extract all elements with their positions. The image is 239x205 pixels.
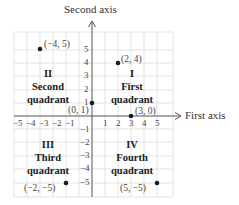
x-tick: 1 <box>103 119 108 128</box>
point-label: (−2, −5) <box>24 184 55 194</box>
y-tick: −3 <box>80 151 90 160</box>
y-tick: −2 <box>80 138 90 147</box>
quadrant-word: quadrant <box>18 93 78 106</box>
point-neg2-neg5 <box>64 181 69 186</box>
quadrant-3-label: III Third quadrant <box>18 138 78 177</box>
x-tick: 3 <box>129 119 134 128</box>
point-5-neg5 <box>155 181 160 186</box>
y-tick: 5 <box>84 45 89 54</box>
quadrant-name: Fourth <box>99 151 165 164</box>
quadrant-name: Third <box>18 151 78 164</box>
y-tick: 2 <box>84 85 89 94</box>
point-label: (0, 1) <box>68 106 89 116</box>
x-tick: −2 <box>52 119 62 128</box>
y-tick: −4 <box>80 164 90 173</box>
quadrant-word: quadrant <box>99 164 165 177</box>
quadrant-numeral: I <box>99 67 165 80</box>
x-tick: 4 <box>142 119 147 128</box>
point-label: (−4, 5) <box>44 40 70 50</box>
point-label: (3, 0) <box>135 107 156 117</box>
y-tick: 3 <box>84 71 89 80</box>
quadrant-word: quadrant <box>99 93 165 106</box>
point-label: (5, −5) <box>120 184 146 194</box>
x-tick: −3 <box>39 119 49 128</box>
x-tick: −1 <box>65 119 75 128</box>
quadrant-numeral: III <box>18 138 78 151</box>
y-tick: −1 <box>80 125 90 134</box>
first-axis-title: First axis <box>185 110 226 121</box>
y-tick: 4 <box>84 58 89 67</box>
x-tick: 5 <box>155 119 160 128</box>
quadrant-numeral: II <box>18 67 78 80</box>
quadrant-word: quadrant <box>18 164 78 177</box>
quadrant-name: Second <box>18 80 78 93</box>
x-tick: −4 <box>26 119 36 128</box>
quadrant-1-label: I First quadrant <box>99 67 165 106</box>
quadrant-name: First <box>99 80 165 93</box>
point-neg4-5 <box>38 47 43 52</box>
quadrant-2-label: II Second quadrant <box>18 67 78 106</box>
quadrant-4-label: IV Fourth quadrant <box>99 138 165 177</box>
y-tick: −5 <box>80 178 90 187</box>
x-tick: −5 <box>13 119 23 128</box>
point-label: (2, 4) <box>121 55 142 65</box>
second-axis-title: Second axis <box>64 4 117 15</box>
point-0-1 <box>90 101 95 106</box>
point-2-4 <box>116 61 121 66</box>
quadrant-numeral: IV <box>99 138 165 151</box>
x-tick: 2 <box>116 119 121 128</box>
